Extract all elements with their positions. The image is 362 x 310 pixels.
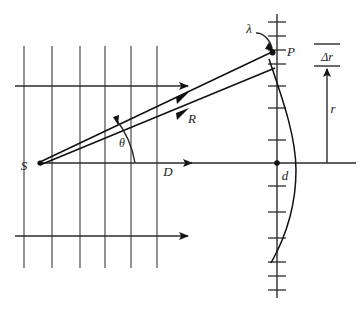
theta-arc-arrowhead xyxy=(113,115,119,125)
label-ray-R: R xyxy=(187,111,196,126)
aperture-point-marker xyxy=(274,160,280,166)
label-angle-theta: θ xyxy=(119,136,125,150)
label-aperture-d: d xyxy=(282,168,289,183)
optics-geometry-diagram: S P λ R D θ d r Δr xyxy=(0,0,362,310)
label-radius-r: r xyxy=(330,101,336,116)
label-source-S: S xyxy=(21,158,28,173)
label-wavelength-lambda: λ xyxy=(245,21,252,36)
wavefront-grid xyxy=(24,46,157,268)
lambda-leader-arrowhead xyxy=(265,42,274,51)
spherical-wavefront-arc xyxy=(269,59,296,263)
label-point-P: P xyxy=(286,44,295,59)
screen-axis xyxy=(268,14,286,298)
figure-container: S P λ R D θ d r Δr xyxy=(0,0,362,310)
label-path-difference-delta-r: Δr xyxy=(320,50,333,64)
label-distance-D: D xyxy=(162,164,173,179)
source-point-marker xyxy=(37,160,42,165)
ray-upper xyxy=(40,52,272,162)
